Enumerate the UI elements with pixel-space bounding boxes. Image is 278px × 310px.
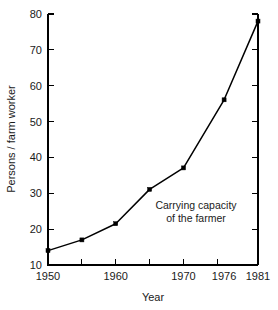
- x-axis-title: Year: [142, 291, 165, 303]
- data-markers: [46, 19, 260, 253]
- x-tick-label-1950: 1950: [36, 270, 60, 282]
- x-tick-label-1981: 1981: [246, 270, 270, 282]
- axis-spine-left-bottom: [48, 14, 258, 265]
- y-tick-label-50: 50: [30, 116, 42, 128]
- y-tick-label-40: 40: [30, 151, 42, 163]
- chart-figure: 10 20 30 40 50 60 70 80 1950 1960 1970 1…: [0, 0, 278, 310]
- line-chart: 10 20 30 40 50 60 70 80 1950 1960 1970 1…: [0, 0, 278, 310]
- y-tick-label-30: 30: [30, 187, 42, 199]
- y-axis-title: Persons / farm worker: [5, 85, 17, 193]
- y-tickmarks-right: [252, 50, 258, 229]
- annotation-line-2: of the farmer: [166, 212, 226, 224]
- x-tickmarks: [82, 259, 218, 265]
- data-line-carrying-capacity: [48, 21, 258, 251]
- x-tick-label-1970: 1970: [171, 270, 195, 282]
- x-tick-label-1960: 1960: [103, 270, 127, 282]
- y-tick-label-70: 70: [30, 44, 42, 56]
- y-tick-label-20: 20: [30, 223, 42, 235]
- y-tickmarks: [48, 50, 54, 265]
- y-tick-label-60: 60: [30, 80, 42, 92]
- x-tick-label-1976: 1976: [212, 270, 236, 282]
- annotation-line-1: Carrying capacity: [155, 199, 237, 211]
- y-tick-label-80: 80: [30, 8, 42, 20]
